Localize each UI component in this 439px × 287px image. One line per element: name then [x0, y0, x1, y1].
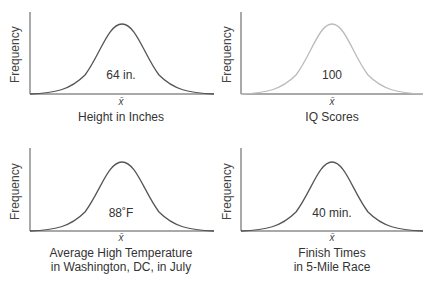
- x-bar-label: x̄: [119, 232, 124, 243]
- x-bar-label: x̄: [119, 96, 124, 107]
- mean-value-label: 100: [322, 68, 342, 82]
- chart-iq-scores: Frequency 100 x̄ IQ Scores: [220, 0, 439, 140]
- x-bar-label: x̄: [330, 96, 335, 107]
- mean-value-label: 40 min.: [312, 206, 351, 220]
- chart-average-high-temperature: Frequency 88˚F x̄ Average High Temperatu…: [0, 140, 220, 287]
- mean-value-label: 64 in.: [106, 68, 135, 82]
- bell-curve: [241, 24, 423, 94]
- chart-caption: IQ Scores: [305, 110, 358, 124]
- y-axis-label: Frequency: [220, 163, 234, 220]
- y-axis-label: Frequency: [8, 26, 22, 83]
- chart-caption: Height in Inches: [78, 110, 164, 124]
- chart-height-in-inches: Frequency 64 in. x̄ Height in Inches: [0, 0, 220, 140]
- bell-curve: [30, 162, 214, 231]
- x-bar-label: x̄: [330, 232, 335, 243]
- bell-curve: [241, 162, 423, 231]
- y-axis-label: Frequency: [8, 163, 22, 220]
- chart-caption-line2: in Washington, DC, in July: [51, 260, 191, 274]
- mean-value-label: 88˚F: [109, 206, 134, 220]
- chart-caption-line1: Average High Temperature: [50, 246, 193, 260]
- chart-finish-times: Frequency 40 min. x̄ Finish Times in 5-M…: [220, 140, 439, 287]
- y-axis-label: Frequency: [220, 26, 234, 83]
- chart-caption-line1: Finish Times: [298, 246, 365, 260]
- bell-curve: [30, 24, 214, 94]
- chart-caption-line2: in 5-Mile Race: [294, 260, 371, 274]
